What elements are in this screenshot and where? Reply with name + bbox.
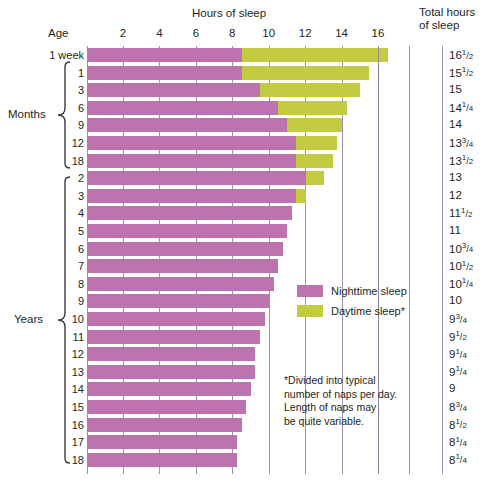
sleep-chart: Hours of sleep Total hours of sleep Age … — [0, 0, 495, 492]
bar-row[interactable] — [87, 171, 323, 185]
nighttime-sleep-segment — [87, 136, 296, 150]
x-tick-14: 14 — [331, 27, 353, 39]
daytime-sleep-segment — [278, 101, 346, 115]
footnote-line3: Length of naps may — [284, 401, 404, 415]
nighttime-sleep-segment — [87, 83, 260, 97]
age-label: 9 — [6, 295, 84, 307]
total-hours-value: 101/2 — [449, 259, 473, 272]
x-tick-6: 6 — [185, 27, 207, 39]
daytime-sleep-segment — [242, 66, 370, 80]
nighttime-sleep-segment — [87, 101, 278, 115]
total-hours-value: 161/2 — [449, 48, 473, 61]
bar-row[interactable] — [87, 347, 255, 361]
age-label: 12 — [6, 348, 84, 360]
bar-row[interactable] — [87, 206, 291, 220]
daytime-sleep-segment — [260, 83, 360, 97]
legend-swatch — [297, 305, 323, 317]
bar-row[interactable] — [87, 154, 332, 168]
bar-row[interactable] — [87, 224, 287, 238]
bar-row[interactable] — [87, 400, 246, 414]
nighttime-sleep-segment — [87, 48, 242, 62]
age-label: 12 — [6, 137, 84, 149]
total-hours-value: 15 — [449, 83, 462, 95]
bar-row[interactable] — [87, 101, 346, 115]
x-tick-10: 10 — [258, 27, 280, 39]
bar-row[interactable] — [87, 48, 387, 62]
age-label: 18 — [6, 454, 84, 466]
total-hours-value: 91/4 — [449, 365, 467, 378]
years-brace-label: Years — [14, 313, 43, 325]
age-label: 9 — [6, 119, 84, 131]
x-tick-2: 2 — [112, 27, 134, 39]
total-hours-value: 141/4 — [449, 101, 473, 114]
total-hours-value: 83/4 — [449, 400, 467, 413]
total-hours-value: 151/2 — [449, 66, 473, 79]
bar-row[interactable] — [87, 242, 282, 256]
x-tick-4: 4 — [148, 27, 170, 39]
nighttime-sleep-segment — [87, 66, 242, 80]
nighttime-sleep-segment — [87, 206, 292, 220]
nighttime-sleep-segment — [87, 347, 255, 361]
age-label: 13 — [6, 366, 84, 378]
nighttime-sleep-segment — [87, 330, 260, 344]
bar-row[interactable] — [87, 418, 241, 432]
bar-row[interactable] — [87, 136, 337, 150]
nighttime-sleep-segment — [87, 312, 265, 326]
total-hours-value: 81/2 — [449, 418, 467, 431]
bar-row[interactable] — [87, 382, 251, 396]
nighttime-sleep-segment — [87, 400, 246, 414]
age-label: 17 — [6, 436, 84, 448]
daytime-sleep-segment — [296, 136, 337, 150]
total-hours-value: 14 — [449, 118, 462, 130]
total-hours-value: 12 — [449, 189, 462, 201]
months-brace — [56, 60, 72, 170]
age-label: 16 — [6, 419, 84, 431]
total-hours-value: 91/2 — [449, 330, 467, 343]
footnote: *Divided into typical number of naps per… — [284, 374, 404, 428]
age-label: 4 — [6, 207, 84, 219]
total-hours-value: 101/4 — [449, 277, 473, 290]
legend-item[interactable]: Nighttime sleep — [297, 285, 407, 297]
daytime-sleep-segment — [306, 171, 324, 185]
years-brace — [56, 175, 72, 465]
age-label: 5 — [6, 225, 84, 237]
bar-row[interactable] — [87, 66, 369, 80]
total-hours-value: 81/4 — [449, 435, 467, 448]
bar-row[interactable] — [87, 83, 360, 97]
bar-row[interactable] — [87, 294, 269, 308]
legend: Nighttime sleepDaytime sleep* — [297, 285, 407, 325]
age-label: 15 — [6, 401, 84, 413]
x-tick-16: 16 — [367, 27, 389, 39]
footnote-line2: number of naps per day. — [284, 388, 404, 402]
nighttime-sleep-segment — [87, 453, 237, 467]
bar-row[interactable] — [87, 118, 342, 132]
months-brace-label: Months — [8, 108, 46, 120]
total-hours-value: 13 — [449, 171, 462, 183]
age-label: 18 — [6, 155, 84, 167]
nighttime-sleep-segment — [87, 365, 255, 379]
total-hours-value: 93/4 — [449, 312, 467, 325]
total-hours-title: Total hours of sleep — [419, 6, 475, 32]
nighttime-sleep-segment — [87, 242, 283, 256]
age-axis-label: Age — [48, 27, 68, 39]
bar-row[interactable] — [87, 330, 260, 344]
bar-row[interactable] — [87, 277, 273, 291]
daytime-sleep-segment — [242, 48, 388, 62]
daytime-sleep-segment — [287, 118, 342, 132]
bar-row[interactable] — [87, 312, 264, 326]
bar-row[interactable] — [87, 365, 255, 379]
nighttime-sleep-segment — [87, 382, 251, 396]
bar-row[interactable] — [87, 453, 237, 467]
legend-label: Daytime sleep* — [331, 305, 405, 317]
total-hours-value: 111/2 — [449, 206, 472, 219]
vertical-rule-c — [442, 46, 443, 474]
bar-row[interactable] — [87, 435, 237, 449]
age-label: 11 — [6, 331, 84, 343]
nighttime-sleep-segment — [87, 154, 296, 168]
age-label: 3 — [6, 190, 84, 202]
bar-row[interactable] — [87, 189, 305, 203]
bar-row[interactable] — [87, 259, 278, 273]
age-label: 3 — [6, 84, 84, 96]
legend-item[interactable]: Daytime sleep* — [297, 305, 407, 317]
total-hours-value: 133/4 — [449, 136, 473, 149]
